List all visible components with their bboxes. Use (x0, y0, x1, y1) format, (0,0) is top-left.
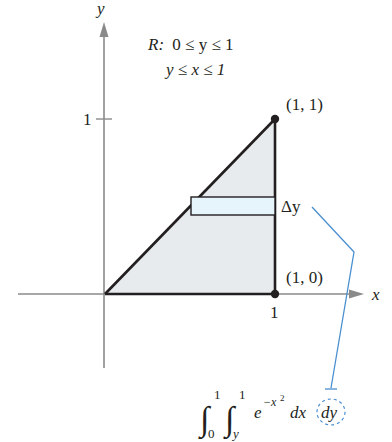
delta-y-label: Δy (281, 197, 301, 216)
integrand-base: e (254, 403, 262, 422)
inner-lower-limit: y (231, 426, 239, 441)
region-y-bounds: 0 ≤ y ≤ 1 (172, 35, 233, 54)
region-name: R: (147, 35, 164, 54)
outer-upper-limit: 1 (214, 387, 221, 402)
y-axis-arrow-icon (100, 22, 109, 37)
callout-line (312, 207, 354, 388)
x-axis-arrow-icon (349, 290, 364, 299)
delta-y-text: Δy (281, 197, 301, 216)
inner-upper-limit: 1 (239, 387, 246, 402)
dy-differential: dy (321, 403, 338, 422)
region-description-line-2: y ≤ x ≤ 1 (164, 60, 225, 79)
y-axis (100, 22, 109, 368)
region-description-line-1: R: 0 ≤ y ≤ 1 (147, 35, 233, 54)
point-1-0-label: (1, 0) (286, 268, 323, 287)
representative-strip (191, 197, 275, 215)
exponent-power: 2 (280, 393, 285, 403)
point-1-1 (271, 115, 279, 123)
y-axis-label: y (95, 0, 105, 18)
dx-differential: dx (290, 403, 307, 422)
x-tick-label: 1 (270, 303, 279, 322)
integrand-exponent: −x (263, 395, 277, 409)
y-tick-label: 1 (83, 110, 92, 129)
outer-lower-limit: 0 (208, 426, 215, 441)
iterated-integral: ∫ 1 0 ∫ 1 y e −x 2 dx dy (198, 387, 345, 441)
x-axis-label: x (371, 285, 380, 304)
point-1-1-label: (1, 1) (286, 95, 323, 114)
double-integral-region-diagram: y x 1 1 R: 0 ≤ y ≤ 1 y ≤ x ≤ 1 (1, 1) (1… (0, 0, 392, 442)
point-1-0 (271, 290, 279, 298)
